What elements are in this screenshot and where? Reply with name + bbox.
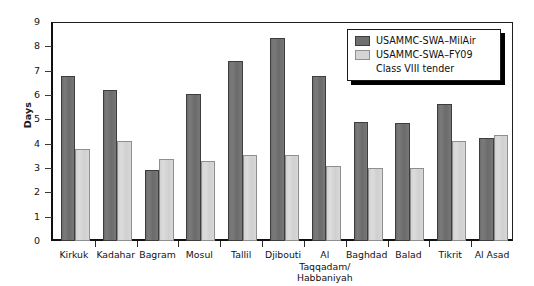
x-axis-tick [471,241,472,247]
y-axis-tick [45,144,52,145]
legend-label-fy09: USAMMC-SWA–FY09 [376,50,473,60]
x-axis-tick [304,241,305,247]
legend-label-milair: USAMMC-SWA–MilAir [376,36,476,46]
bar-fy09 [326,166,341,241]
y-axis-label: 3 [6,163,40,173]
bar-fy09 [117,141,132,241]
legend-item-fy09: USAMMC-SWA–FY09 [355,48,494,62]
x-axis-tick [137,241,138,247]
bar-fy09 [452,141,467,241]
x-axis-label-line: Habbaniyah [290,272,360,284]
bar-milair [395,123,410,241]
y-axis-tick [45,217,52,218]
bar-fy09 [368,168,383,241]
bar-fy09 [75,149,90,241]
y-axis-label: 7 [6,66,40,76]
bar-milair [437,104,452,241]
y-axis-tick [45,168,52,169]
bar-chart: Days 0123456789 KirkukKadaharBagramMosul… [0,0,534,286]
x-axis-label-line: Taqqadam/ [290,261,360,273]
x-axis-label: Al Asad [457,249,527,261]
y-axis-label: 9 [6,17,40,27]
bar-fy09 [159,159,174,241]
legend-swatch-light-icon [355,50,370,60]
bar-milair [186,94,201,241]
bar-milair [479,138,494,241]
y-axis-label: 8 [6,41,40,51]
x-axis-tick [346,241,347,247]
y-axis-tick [45,71,52,72]
x-axis-tick [262,241,263,247]
y-axis-label: 5 [6,114,40,124]
y-axis-tick [45,119,52,120]
bar-milair [270,38,285,241]
bar-milair [312,76,327,241]
bar-milair [145,170,160,241]
x-axis-tick [388,241,389,247]
x-axis-tick [220,241,221,247]
x-axis-tick [429,241,430,247]
x-axis-label-line: Al [320,249,329,260]
bar-milair [228,61,243,241]
y-axis-label: 1 [6,212,40,222]
bar-milair [61,76,76,241]
y-axis-label: 2 [6,187,40,197]
y-axis-tick [45,192,52,193]
legend-swatch-dark-icon [355,36,370,46]
x-axis-tick [178,241,179,247]
y-axis-label: 6 [6,90,40,100]
bar-fy09 [410,168,425,241]
y-axis-tick [45,46,52,47]
chart-legend: USAMMC-SWA–MilAir USAMMC-SWA–FY09 Class … [347,29,501,81]
y-axis-label: 0 [6,236,40,246]
y-axis-label: 4 [6,139,40,149]
bar-fy09 [494,135,509,241]
x-axis-tick [95,241,96,247]
y-axis-tick [45,95,52,96]
bar-fy09 [243,155,258,241]
bar-fy09 [201,161,216,241]
bar-milair [103,90,118,241]
bar-milair [354,122,369,241]
x-axis-label-line: Al Asad [475,249,510,260]
legend-item-milair: USAMMC-SWA–MilAir [355,34,494,48]
bar-fy09 [285,155,300,241]
legend-sublabel: Class VIII tender [355,62,494,76]
